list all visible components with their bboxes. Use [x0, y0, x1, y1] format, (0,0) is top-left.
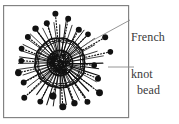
- french-knot-fill-dot: [51, 65, 53, 67]
- bead: [84, 99, 90, 105]
- bead: [15, 69, 22, 76]
- bead: [65, 16, 71, 22]
- bead: [19, 46, 25, 52]
- french-knot-fill-dot: [51, 63, 52, 64]
- french-knot-fill-dot: [55, 71, 57, 73]
- french-knot-fill-dot: [54, 71, 55, 72]
- bead: [102, 34, 108, 40]
- bead: [21, 95, 27, 101]
- french-knot-fill-dot: [55, 68, 57, 70]
- bead: [25, 34, 31, 40]
- bead: [44, 20, 50, 26]
- french-knot-fill-dot: [56, 59, 57, 60]
- bead: [32, 25, 38, 31]
- label-bead-line1: bead: [137, 84, 160, 96]
- french-knot-fill-dot: [58, 62, 59, 63]
- bead: [85, 32, 91, 38]
- bead: [76, 27, 82, 33]
- french-knot-fill-dot: [60, 54, 62, 56]
- figure-root: French knot bead: [0, 0, 179, 124]
- french-knot-fill-dot: [65, 71, 67, 73]
- label-bead: bead: [137, 60, 160, 121]
- french-knot-fill-dot: [61, 70, 62, 71]
- bead: [91, 62, 97, 68]
- french-knot-fill-dot: [58, 68, 60, 70]
- label-french-knot-line1: French: [131, 31, 165, 43]
- bead: [21, 80, 27, 86]
- french-knot-fill-dot: [62, 65, 63, 66]
- bead: [95, 76, 101, 82]
- french-knot-fill-dot: [66, 60, 67, 61]
- bead: [52, 11, 58, 17]
- french-knot-fill-dot: [67, 56, 69, 58]
- french-knot-fill-dot: [59, 60, 61, 62]
- french-knot-fill-dot: [63, 70, 65, 72]
- bead: [18, 58, 24, 64]
- french-knot-fill-dot: [63, 58, 64, 59]
- french-knot-fill-dot: [53, 58, 55, 60]
- bead: [49, 93, 56, 100]
- bead: [108, 49, 114, 55]
- bead: [71, 100, 77, 106]
- bead: [96, 89, 103, 96]
- bead: [59, 103, 66, 110]
- bead: [37, 99, 43, 105]
- french-knot-fill-dot: [68, 58, 70, 60]
- french-knot-fill-dot: [49, 62, 51, 64]
- french-knot-fill-dot: [69, 60, 71, 62]
